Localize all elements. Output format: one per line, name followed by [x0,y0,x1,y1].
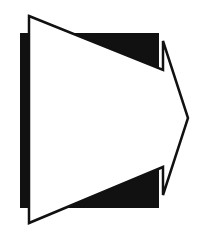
right-arrow-icon [0,0,205,237]
arrow-graphic [0,0,205,237]
